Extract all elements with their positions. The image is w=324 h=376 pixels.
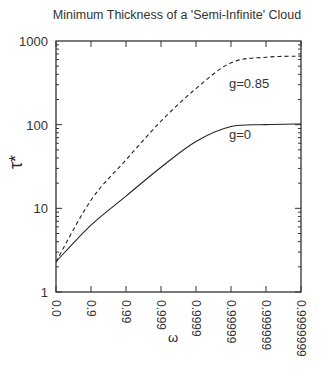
x-tick-label: 0.99999 [224, 300, 238, 344]
x-axis-label: ω [168, 330, 178, 345]
chart-canvas: 11010010000.00.90.990.9990.99990.999990.… [0, 0, 324, 376]
x-tick-label: 0.9 [84, 300, 98, 317]
series-label: g=0.85 [229, 76, 269, 91]
y-tick-label: 1 [41, 285, 48, 300]
x-tick-label: 0.99 [119, 300, 133, 324]
series-line-g-0 [56, 124, 301, 262]
plot-area: 11010010000.00.90.990.9990.99990.999990.… [19, 34, 308, 357]
x-tick-label: 0.0 [49, 300, 63, 317]
x-tick-label: 0.999999 [259, 300, 273, 350]
x-tick-label: 0.9999 [189, 300, 203, 337]
y-tick-label: 100 [26, 118, 48, 133]
y-tick-label: 10 [34, 201, 48, 216]
series-label: g=0 [229, 127, 251, 142]
y-tick-label: 1000 [19, 34, 48, 49]
x-tick-label: 0.999 [154, 300, 168, 330]
y-axis-label: τ* [6, 155, 26, 169]
x-tick-label: 0.9999999 [294, 300, 308, 357]
